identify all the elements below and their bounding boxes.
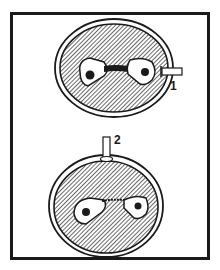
diagram-canvas [0,0,220,270]
label-2: 2 [114,134,121,146]
left-nucleolus [86,71,95,80]
bottom-oocyte [49,155,163,257]
top-oocyte [55,19,173,117]
right-nucleolus-2 [135,203,142,210]
pipette-2 [101,137,113,162]
label-1: 1 [170,80,177,92]
pipette-1 [161,66,182,77]
left-nucleolus-2 [82,208,90,216]
connecting-bridge [104,65,128,72]
right-nucleolus [141,68,149,76]
